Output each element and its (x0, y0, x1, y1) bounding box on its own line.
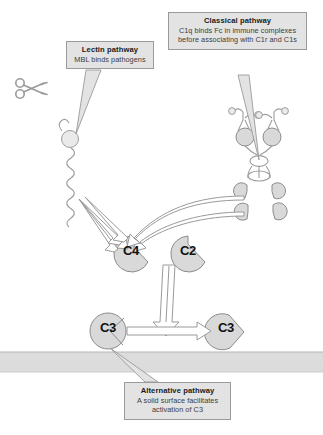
callout-alternative-body: A solid surface facilitates activation o… (129, 396, 226, 415)
mbl-icon (59, 119, 78, 227)
callout-lectin-body: MBL binds pathogens (71, 55, 149, 64)
callout-lectin-title: Lectin pathway (71, 45, 149, 55)
molecule-label-c3-left: C3 (95, 320, 121, 335)
diagram-artwork: .fillS{fill:#d9d9d9;stroke:#8c8c8c;strok… (0, 0, 323, 435)
antibody-icon (229, 108, 289, 131)
leader-lectin (76, 70, 101, 134)
callout-alternative-pathway: Alternative pathway A solid surface faci… (124, 382, 231, 420)
molecule-label-c4: C4 (118, 243, 144, 258)
callout-classical-pathway: Classical pathway C1q binds Fc in immune… (168, 12, 307, 50)
molecule-label-c3-right: C3 (213, 320, 239, 335)
callout-classical-title: Classical pathway (173, 16, 302, 26)
complement-pathway-diagram: .fillS{fill:#d9d9d9;stroke:#8c8c8c;strok… (0, 0, 323, 435)
solid-surface-band (0, 352, 323, 372)
callout-classical-body: C1q binds Fc in immune complexes before … (173, 26, 302, 45)
callout-lectin-pathway: Lectin pathway MBL binds pathogens (66, 41, 154, 69)
scissors-icon[interactable] (8, 68, 55, 108)
arrow-c4c2-to-c3 (153, 265, 179, 336)
callout-alternative-title: Alternative pathway (129, 386, 226, 396)
molecule-label-c2: C2 (175, 243, 201, 258)
